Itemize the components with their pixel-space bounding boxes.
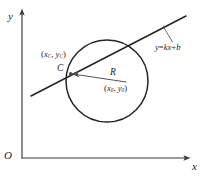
center-close-paren: ) (124, 83, 127, 93)
radius-arrow-shaft (76, 75, 126, 83)
intersection-point-coordinates-label: (xC, yC) (41, 50, 66, 59)
intersection-point-label: C (57, 64, 63, 74)
center-y-subscript: 0 (122, 87, 125, 93)
circle-center-coordinates-label: (x0, y0) (104, 84, 127, 93)
figure-canvas: y x O (xC, yC) C R (x0, y0) y=kx+b (0, 0, 209, 177)
radius-arrow-group (71, 71, 126, 82)
origin-label: O (4, 150, 12, 161)
center-x-subscript: 0 (111, 87, 114, 93)
equation-intercept: b (176, 42, 180, 52)
intersection-point-marker (69, 72, 72, 75)
y-axis-label: y (8, 11, 13, 22)
x-axis-label: x (192, 161, 197, 172)
line-equation-label: y=kx+b (155, 43, 181, 52)
coord-y-subscript: C (59, 53, 63, 59)
center-y-var: y (118, 83, 122, 93)
circle-shape (66, 40, 148, 122)
radius-label: R (110, 68, 116, 78)
coord-x-subscript: C (48, 53, 52, 59)
line-equation-leader (163, 26, 173, 42)
coord-close-paren: ) (63, 49, 66, 59)
